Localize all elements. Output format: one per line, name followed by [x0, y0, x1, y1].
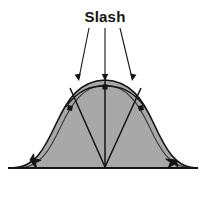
slash-label: Slash — [84, 8, 125, 25]
bell-curve-fill — [12, 80, 196, 168]
square-marker-crest — [103, 85, 108, 90]
leader-arrowhead-left — [75, 74, 83, 82]
leader-line-left — [79, 28, 89, 78]
leader-line-right — [120, 28, 132, 78]
square-marker-left-mid — [67, 105, 73, 111]
slash-diagram: Slash — [0, 0, 206, 200]
leader-arrowhead-right — [129, 74, 137, 82]
square-marker-right-mid — [138, 105, 144, 111]
diagram-canvas: Slash — [0, 0, 206, 200]
